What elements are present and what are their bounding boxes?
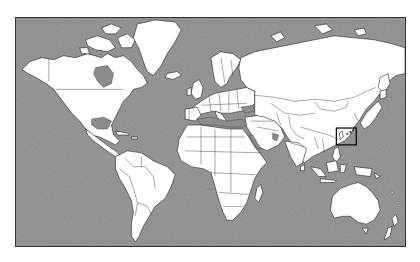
world-map-svg <box>16 18 405 246</box>
world-map <box>15 17 406 247</box>
page: Highlighted region (Taiwan / Ryukyu Isla… <box>0 0 420 262</box>
